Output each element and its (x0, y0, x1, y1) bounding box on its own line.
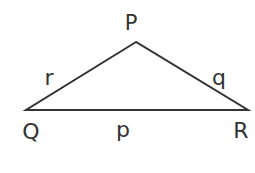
triangle-diagram: P Q R r q p (0, 0, 255, 173)
vertex-label-r: R (233, 118, 248, 143)
vertex-label-p: P (125, 11, 138, 35)
side-label-q: q (212, 65, 226, 90)
vertex-label-q: Q (22, 119, 39, 144)
side-label-p: p (116, 117, 130, 142)
side-label-r: r (44, 65, 54, 90)
